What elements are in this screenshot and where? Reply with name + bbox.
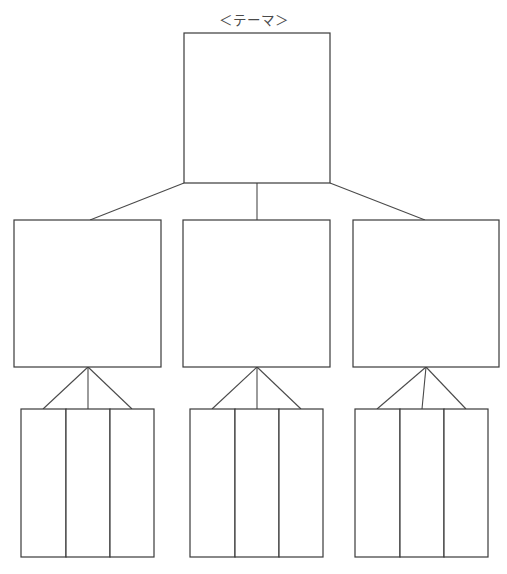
connector-left-to-leaf-3 <box>88 367 132 409</box>
connector-center-to-leaf-3 <box>257 367 301 409</box>
branch-left[interactable] <box>14 220 161 367</box>
leaf-center-2[interactable] <box>235 409 279 557</box>
leaf-box-group-right <box>355 409 488 557</box>
connector-right-to-leaf-2 <box>422 367 426 409</box>
branch-right[interactable] <box>353 220 499 367</box>
leaf-right-3[interactable] <box>444 409 488 557</box>
connector-right-to-leaf-3 <box>426 367 466 409</box>
leaf-right-1[interactable] <box>355 409 400 557</box>
leaf-center-1[interactable] <box>190 409 235 557</box>
leaf-box-group-left <box>21 409 154 557</box>
leaf-center-3[interactable] <box>279 409 323 557</box>
connector-root-to-right <box>330 183 425 220</box>
tree-chart-worksheet: ＜テーマ＞ <box>0 0 507 574</box>
leaf-right-2[interactable] <box>400 409 444 557</box>
connector-left-to-leaf-1 <box>43 367 88 409</box>
connector-right-to-leaf-1 <box>377 367 426 409</box>
branch-box-group <box>14 220 499 367</box>
leaf-left-3[interactable] <box>110 409 154 557</box>
connector-center-to-leaf-1 <box>212 367 257 409</box>
branch-center[interactable] <box>183 220 330 367</box>
connector-root-to-left <box>90 183 184 220</box>
leaf-box-group-center <box>190 409 323 557</box>
leaf-left-2[interactable] <box>66 409 110 557</box>
theme-box[interactable] <box>184 33 330 183</box>
leaf-left-1[interactable] <box>21 409 66 557</box>
root-box-group <box>184 33 330 183</box>
diagram-canvas <box>0 0 507 574</box>
